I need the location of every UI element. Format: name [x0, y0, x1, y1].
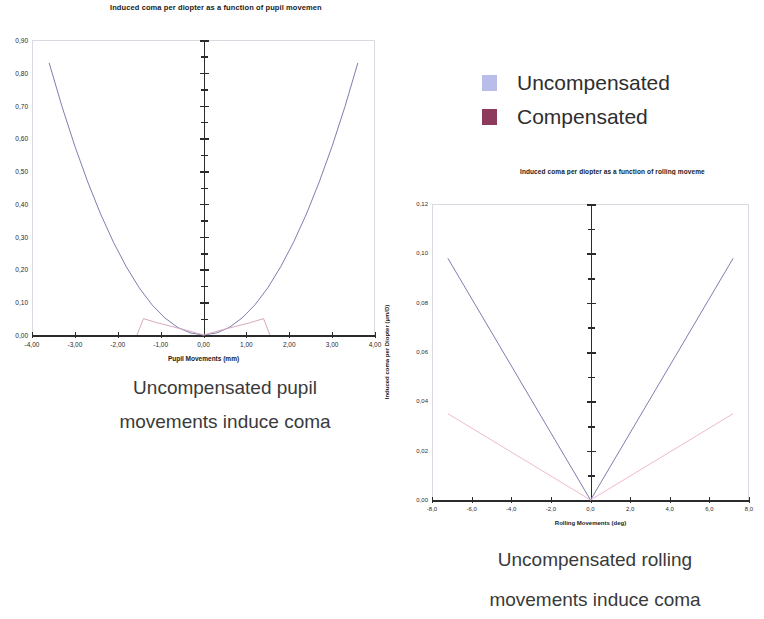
plot-area-rolling: -8,0-6,0-4,0-2,00,02,04,06,08,00,000,020… — [400, 165, 764, 535]
legend-item-compensated[interactable]: Compensated — [482, 100, 670, 134]
series-layer — [400, 165, 764, 535]
legend-label-uncompensated: Uncompensated — [517, 71, 670, 95]
legend-swatch-uncompensated-icon — [482, 75, 497, 91]
plot-area-pupil: -4,00-3,00-2,00-1,000,001,002,003,004,00… — [0, 0, 400, 365]
legend-label-compensated: Compensated — [517, 105, 648, 129]
series-line-compensated — [448, 414, 733, 500]
y-axis-title: Induced coma per Diopter (µm/D) — [384, 204, 390, 500]
series-line-compensated — [137, 319, 270, 335]
caption-rolling-line2: movements induce coma — [430, 590, 760, 609]
caption-pupil-line2: movements induce coma — [60, 412, 390, 431]
legend-swatch-compensated-icon — [482, 109, 497, 125]
legend-item-uncompensated[interactable]: Uncompensated — [482, 66, 670, 100]
series-layer — [0, 0, 400, 365]
caption-rolling-line1: Uncompensated rolling — [430, 550, 760, 569]
series-line-uncompensated — [49, 63, 358, 335]
chart-rolling-movements: Induced coma per diopter as a function o… — [400, 165, 764, 535]
chart-pupil-movements: Induced coma per diopter as a function o… — [0, 0, 400, 365]
series-line-uncompensated — [448, 258, 733, 500]
legend: Uncompensated Compensated — [482, 66, 670, 134]
caption-pupil-line1: Uncompensated pupil — [60, 378, 390, 397]
figure-page: Induced coma per diopter as a function o… — [0, 0, 764, 619]
